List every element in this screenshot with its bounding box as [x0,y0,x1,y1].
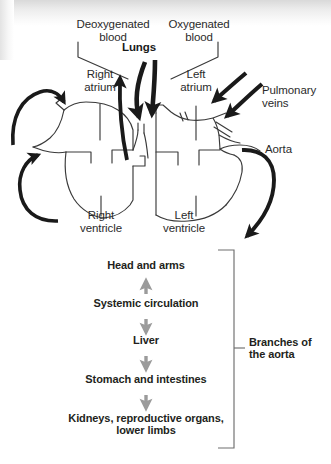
flow-step-head-and-arms: Head and arms [107,259,185,271]
flow-step-kidneys-reproductive-lower-limbs: Kidneys, reproductive organs, lower limb… [68,412,223,437]
systemic-flow-layer [0,0,331,464]
label-branches-of-the-aorta: Branches of the aorta [249,336,311,361]
figure-canvas: Deoxygenated blood Oxygenated blood Lung… [0,0,331,464]
flow-step-systemic-circulation: Systemic circulation [94,297,199,309]
flow-step-stomach-and-intestines: Stomach and intestines [85,373,206,385]
flow-step-liver: Liver [133,334,159,346]
